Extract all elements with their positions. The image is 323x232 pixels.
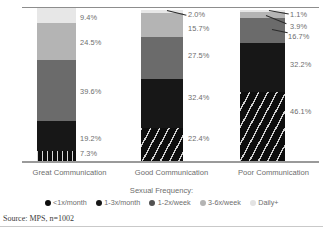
value-label-good-daily-plus: 2.0% xyxy=(188,10,205,19)
legend-item-3-6x-week[interactable]: 3-6x/week xyxy=(200,198,241,207)
bar-great-communication[interactable] xyxy=(37,8,76,162)
bar-poor-communication[interactable] xyxy=(240,10,285,162)
source-note: Source: MPS, n=1002 xyxy=(3,214,74,223)
value-label-good-lt1x-month: 22.4% xyxy=(188,134,209,143)
plot-area: 7.3% 19.2% 39.6% 24.5% 9.4% 22.4% 32.4% … xyxy=(0,0,323,162)
legend-swatch-icon xyxy=(200,200,206,206)
legend-label: 1-2x/week xyxy=(158,198,191,207)
bar-segment-1-3x-month[interactable] xyxy=(240,43,285,92)
value-label-poor-daily-plus: 1.1% xyxy=(290,10,307,19)
value-label-great-3-6x-week: 24.5% xyxy=(80,38,101,47)
value-label-poor-1-3x-month: 32.2% xyxy=(290,60,311,69)
category-label-good-communication: Good Communication xyxy=(124,168,219,177)
value-label-poor-3-6x-week: 3.9% xyxy=(290,22,307,31)
value-label-great-1-3x-month: 19.2% xyxy=(80,134,101,143)
chart-page: 7.3% 19.2% 39.6% 24.5% 9.4% 22.4% 32.4% … xyxy=(0,0,323,232)
axis-baseline xyxy=(22,161,319,163)
bar-segment-3-6x-week[interactable] xyxy=(37,23,76,61)
bar-segment-lt1x-month[interactable] xyxy=(141,128,183,162)
hatch-pattern-icon xyxy=(141,128,183,162)
value-label-great-daily-plus: 9.4% xyxy=(80,13,97,22)
legend-label: Daily+ xyxy=(258,198,278,207)
legend-swatch-icon xyxy=(45,200,51,206)
value-label-poor-lt1x-month: 46.1% xyxy=(290,107,311,116)
value-label-good-1-2x-week: 27.5% xyxy=(188,51,209,60)
bar-segment-1-3x-month[interactable] xyxy=(37,121,76,151)
value-label-poor-1-2x-week: 16.7% xyxy=(288,32,309,41)
category-label-poor-communication: Poor Communication xyxy=(226,168,321,177)
legend-label: 1-3x/month xyxy=(104,198,140,207)
legend-swatch-icon xyxy=(250,200,256,206)
bar-segment-lt1x-month[interactable] xyxy=(240,92,285,162)
bar-segment-1-2x-week[interactable] xyxy=(141,37,183,79)
legend-item-1-3x-month[interactable]: 1-3x/month xyxy=(96,198,140,207)
legend-title: Sexual Frequency: xyxy=(0,186,323,195)
legend-label: 3-6x/week xyxy=(208,198,241,207)
legend-swatch-icon xyxy=(149,200,155,206)
footer-divider xyxy=(0,226,323,227)
value-label-great-lt1x-month: 7.3% xyxy=(80,149,97,158)
value-label-good-1-3x-month: 32.4% xyxy=(188,93,209,102)
bar-good-communication[interactable] xyxy=(141,10,183,162)
legend: <1x/month 1-3x/month 1-2x/week 3-6x/week… xyxy=(0,198,323,207)
value-label-great-1-2x-week: 39.6% xyxy=(80,87,101,96)
legend-item-lt1x-month[interactable]: <1x/month xyxy=(45,198,87,207)
legend-item-daily-plus[interactable]: Daily+ xyxy=(250,198,279,207)
bar-segment-1-2x-week[interactable] xyxy=(37,60,76,121)
category-label-great-communication: Great Communication xyxy=(22,168,117,177)
bar-segment-daily-plus[interactable] xyxy=(37,8,76,22)
legend-label: <1x/month xyxy=(53,198,87,207)
bar-segment-3-6x-week[interactable] xyxy=(141,13,183,37)
legend-swatch-icon xyxy=(96,200,102,206)
value-label-good-3-6x-week: 15.7% xyxy=(188,24,209,33)
bar-segment-1-3x-month[interactable] xyxy=(141,79,183,128)
legend-item-1-2x-week[interactable]: 1-2x/week xyxy=(149,198,190,207)
hatch-pattern-icon xyxy=(240,92,285,162)
